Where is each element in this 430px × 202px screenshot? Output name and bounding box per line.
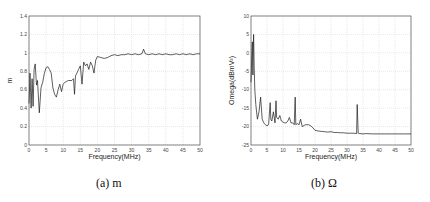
chart-m-ytick: 1.2 — [20, 31, 27, 37]
chart-omega-xtick: 5 — [266, 147, 269, 153]
chart-omega-ytick: -20 — [242, 123, 249, 129]
chart-m-xtick: 35 — [146, 147, 152, 153]
chart-omega-ytick: -5 — [245, 68, 250, 74]
chart-m-ytick: 1 — [24, 50, 27, 56]
chart-m: 0510152025303540455000.20.40.60.811.21.4… — [0, 0, 215, 170]
chart-m-xlabel: Frequency(MHz) — [88, 153, 140, 161]
chart-omega: 05101520253035404550-25-20-15-10-50510Fr… — [215, 0, 430, 170]
chart-omega-ytick: -25 — [242, 142, 249, 148]
chart-m-xtick: 5 — [45, 147, 48, 153]
chart-m-xtick: 0 — [28, 147, 31, 153]
chart-omega-ytick: -15 — [242, 105, 249, 111]
chart-m-xtick: 40 — [163, 147, 169, 153]
chart-omega-xtick: 45 — [392, 147, 398, 153]
chart-m-xtick: 15 — [78, 147, 84, 153]
chart-m-xtick: 10 — [60, 147, 66, 153]
chart-m-ytick: 1.4 — [20, 13, 27, 19]
chart-m-ytick: 0.6 — [20, 86, 27, 92]
chart-omega-grid — [251, 16, 411, 145]
chart-omega-xlabel: Frequency(MHz) — [305, 153, 357, 161]
chart-omega-ytick: 5 — [246, 31, 249, 37]
chart-omega-ytick: 10 — [243, 13, 249, 19]
chart-omega-svg: 05101520253035404550-25-20-15-10-50510Fr… — [215, 0, 430, 170]
chart-omega-ylabel: Omega(dBmV²) — [228, 56, 236, 105]
chart-m-ytick: 0.4 — [20, 105, 27, 111]
chart-omega-xtick: 0 — [250, 147, 253, 153]
caption-a: (a) m — [96, 176, 122, 191]
chart-m-ytick: 0.2 — [20, 123, 27, 129]
chart-omega-ytick: -10 — [242, 86, 249, 92]
chart-omega-xtick: 40 — [376, 147, 382, 153]
chart-m-ylabel: m — [6, 77, 13, 83]
chart-omega-xtick: 50 — [408, 147, 414, 153]
caption-b: (b) Ω — [311, 176, 337, 191]
chart-m-ytick: 0.8 — [20, 68, 27, 74]
chart-omega-xtick: 10 — [280, 147, 286, 153]
chart-m-ytick: 0 — [24, 142, 27, 148]
chart-m-xtick: 50 — [197, 147, 203, 153]
chart-omega-xtick: 35 — [360, 147, 366, 153]
chart-m-xtick: 45 — [180, 147, 186, 153]
chart-m-svg: 0510152025303540455000.20.40.60.811.21.4… — [0, 0, 215, 170]
chart-omega-xtick: 15 — [296, 147, 302, 153]
chart-m-grid — [29, 16, 200, 145]
chart-omega-ytick: 0 — [246, 50, 249, 56]
